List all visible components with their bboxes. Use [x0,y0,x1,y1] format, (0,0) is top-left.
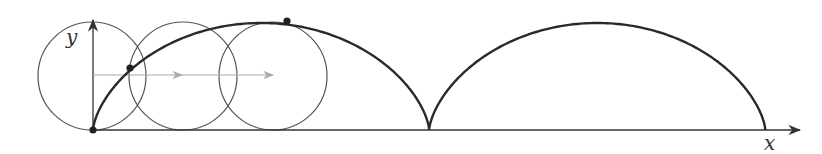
cycloid-diagram: y x [0,0,822,154]
rolling-circle-3 [219,22,327,130]
rolling-circle-1 [38,22,146,130]
marked-point-2 [126,64,133,71]
x-axis-label: x [764,131,775,154]
diagram-canvas: y x [0,0,822,154]
cycloid-curve [93,23,765,130]
y-axis-label: y [65,25,78,49]
marked-point-3 [283,17,290,24]
marked-point-1 [89,126,96,133]
